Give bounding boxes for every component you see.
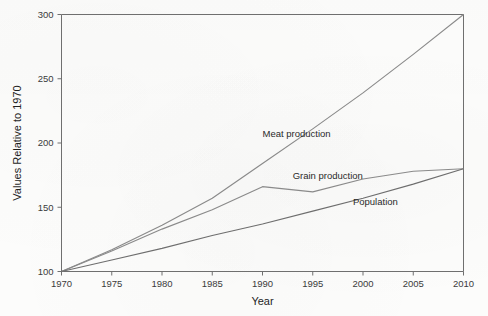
x-tick-label: 2005 xyxy=(403,278,424,289)
y-tick-label: 250 xyxy=(38,73,54,84)
line-chart: 1001502002503001970197519801985199019952… xyxy=(0,0,488,316)
y-tick-label: 100 xyxy=(38,266,54,277)
x-tick-label: 2010 xyxy=(453,278,474,289)
x-tick-label: 1995 xyxy=(302,278,323,289)
x-tick-label: 1975 xyxy=(101,278,122,289)
y-axis-title: Values Relative to 1970 xyxy=(11,85,23,200)
plot-border xyxy=(62,15,464,272)
y-tick-label: 200 xyxy=(38,137,54,148)
plot-frame xyxy=(62,15,464,272)
x-tick-label: 1980 xyxy=(151,278,172,289)
x-tick-label: 2000 xyxy=(352,278,373,289)
x-tick-label: 1990 xyxy=(252,278,273,289)
axis-ticks xyxy=(58,15,464,276)
x-tick-label: 1970 xyxy=(51,278,72,289)
series-line-meat-production xyxy=(62,15,464,272)
data-series xyxy=(62,15,464,272)
series-label-meat-production: Meat production xyxy=(263,128,331,139)
series-line-grain-production xyxy=(62,169,464,272)
series-label-population: Population xyxy=(353,196,398,207)
x-tick-label: 1985 xyxy=(202,278,223,289)
y-tick-label: 300 xyxy=(38,9,54,20)
axis-and-series-labels: 1001502002503001970197519801985199019952… xyxy=(11,9,474,307)
x-axis-title: Year xyxy=(251,295,274,307)
chart-figure: 1001502002503001970197519801985199019952… xyxy=(0,0,488,316)
y-tick-label: 150 xyxy=(38,202,54,213)
series-label-grain-production: Grain production xyxy=(293,170,363,181)
series-line-population xyxy=(62,169,464,272)
